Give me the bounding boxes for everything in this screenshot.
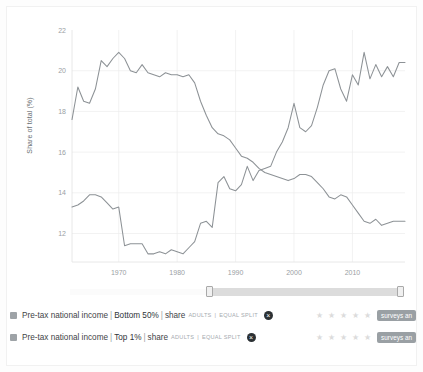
slider-handle-left[interactable] — [206, 286, 213, 297]
source-button[interactable]: surveys an — [377, 332, 416, 343]
legend-meta-population: ADULTS — [188, 312, 211, 318]
y-axis-tick-label: 16 — [58, 149, 66, 156]
x-axis-tick-label: 1990 — [228, 269, 244, 276]
chart-area: Share of total (%) 222018161412197019801… — [10, 10, 413, 295]
y-axis-tick-label: 12 — [58, 230, 66, 237]
legend-measure-name: share — [148, 333, 168, 342]
legend-meta-split: EQUAL SPLIT — [219, 312, 258, 318]
legend-meta-split: EQUAL SPLIT — [202, 334, 241, 340]
x-axis-tick-label: 2010 — [345, 269, 361, 276]
slider-handle-right[interactable] — [397, 286, 404, 297]
y-axis-tick-label: 14 — [58, 189, 66, 196]
legend-color-swatch — [10, 334, 17, 341]
slider-selected-range[interactable] — [207, 288, 400, 296]
x-axis-tick-label: 1980 — [169, 269, 185, 276]
quality-rating-stars[interactable]: ★ ★ ★ ★ ★ — [316, 311, 373, 320]
legend-measure-name: share — [165, 311, 185, 320]
source-button[interactable]: surveys an — [377, 310, 416, 321]
time-range-slider[interactable] — [70, 286, 403, 297]
remove-series-icon[interactable]: × — [264, 311, 273, 320]
legend-row[interactable]: Pre-tax national income | Bottom 50% | s… — [10, 304, 416, 326]
remove-series-icon[interactable]: × — [247, 333, 256, 342]
legend-group-name: Bottom 50% — [114, 311, 159, 320]
line-chart-plot: 22201816141219701980199020002010 — [10, 10, 413, 295]
y-axis-tick-label: 18 — [58, 108, 66, 115]
legend-color-swatch — [10, 312, 17, 319]
legend-meta-separator: | — [215, 312, 217, 318]
chart-viewer-app: Share of total (%) 222018161412197019801… — [0, 0, 423, 372]
legend-separator: | — [143, 333, 145, 342]
y-axis-tick-label: 20 — [58, 67, 66, 74]
x-axis-tick-label: 1970 — [111, 269, 127, 276]
x-axis-tick-label: 2000 — [286, 269, 302, 276]
legend-separator: | — [110, 333, 112, 342]
legend-separator: | — [161, 311, 163, 320]
legend-meta-separator: | — [197, 334, 199, 340]
legend-indicator-name: Pre-tax national income — [22, 333, 108, 342]
y-axis-tick-label: 22 — [58, 27, 66, 34]
legend-separator: | — [110, 311, 112, 320]
legend-group-name: Top 1% — [114, 333, 141, 342]
legend-row[interactable]: Pre-tax national income | Top 1% | share… — [10, 326, 416, 348]
legend-row-actions: ★ ★ ★ ★ ★ surveys an — [316, 326, 416, 348]
series-line-2 — [72, 52, 405, 253]
legend-indicator-name: Pre-tax national income — [22, 311, 108, 320]
quality-rating-stars[interactable]: ★ ★ ★ ★ ★ — [316, 333, 373, 342]
legend-meta-population: ADULTS — [171, 334, 194, 340]
legend: Pre-tax national income | Bottom 50% | s… — [10, 304, 416, 348]
legend-row-actions: ★ ★ ★ ★ ★ surveys an — [316, 304, 416, 326]
